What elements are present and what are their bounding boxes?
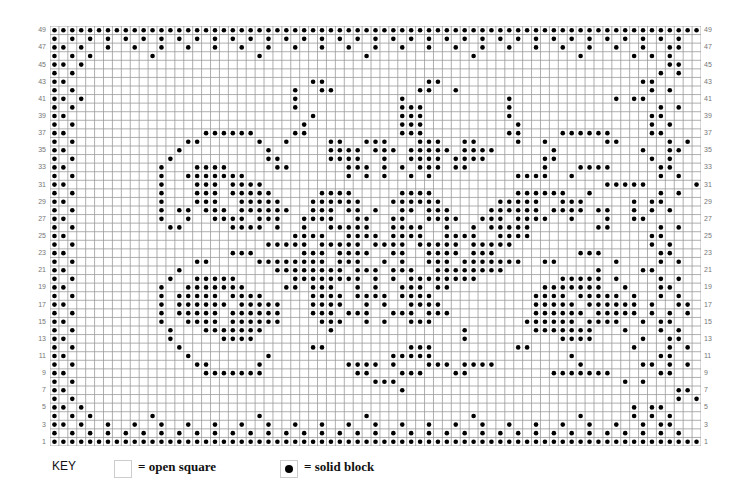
row-label-right: 21 [704, 266, 724, 274]
row-label-left: 1 [30, 438, 46, 446]
row-label-left: 35 [30, 146, 46, 154]
row-label-right: 23 [704, 249, 724, 257]
crochet-chart-grid [50, 26, 701, 446]
row-label-left: 41 [30, 95, 46, 103]
row-label-left: 17 [30, 301, 46, 309]
row-label-right: 47 [704, 43, 724, 51]
row-label-right: 7 [704, 386, 724, 394]
row-label-right: 9 [704, 369, 724, 377]
row-label-right: 35 [704, 146, 724, 154]
row-label-left: 9 [30, 369, 46, 377]
row-label-left: 25 [30, 232, 46, 240]
row-label-left: 37 [30, 129, 46, 137]
row-label-right: 13 [704, 335, 724, 343]
row-label-right: 49 [704, 26, 724, 34]
key-title: KEY [52, 459, 76, 473]
key-solid-label: = solid block [304, 459, 374, 475]
grid-svg [50, 26, 701, 446]
row-label-right: 39 [704, 112, 724, 120]
solid-block-icon [280, 460, 298, 478]
row-label-left: 45 [30, 61, 46, 69]
row-label-right: 27 [704, 215, 724, 223]
row-label-left: 33 [30, 163, 46, 171]
row-label-left: 15 [30, 318, 46, 326]
row-label-left: 5 [30, 403, 46, 411]
chart-key: KEY = open square = solid block [0, 455, 731, 481]
row-label-left: 43 [30, 78, 46, 86]
row-label-right: 17 [704, 301, 724, 309]
row-label-right: 43 [704, 78, 724, 86]
row-label-right: 45 [704, 61, 724, 69]
row-label-left: 3 [30, 421, 46, 429]
row-label-right: 37 [704, 129, 724, 137]
open-square-icon [114, 460, 132, 478]
row-label-left: 23 [30, 249, 46, 257]
row-label-right: 15 [704, 318, 724, 326]
row-label-right: 11 [704, 352, 724, 360]
row-label-right: 19 [704, 283, 724, 291]
row-label-left: 31 [30, 181, 46, 189]
row-label-left: 29 [30, 198, 46, 206]
row-label-right: 25 [704, 232, 724, 240]
row-label-right: 31 [704, 181, 724, 189]
row-label-left: 11 [30, 352, 46, 360]
row-label-right: 29 [704, 198, 724, 206]
row-label-right: 41 [704, 95, 724, 103]
key-open-label: = open square [138, 459, 216, 475]
row-label-left: 49 [30, 26, 46, 34]
row-label-right: 1 [704, 438, 724, 446]
row-label-left: 47 [30, 43, 46, 51]
row-label-right: 3 [704, 421, 724, 429]
row-label-left: 19 [30, 283, 46, 291]
row-label-left: 27 [30, 215, 46, 223]
row-label-left: 39 [30, 112, 46, 120]
row-label-left: 21 [30, 266, 46, 274]
row-label-left: 13 [30, 335, 46, 343]
row-label-right: 5 [704, 403, 724, 411]
row-label-left: 7 [30, 386, 46, 394]
row-label-right: 33 [704, 163, 724, 171]
